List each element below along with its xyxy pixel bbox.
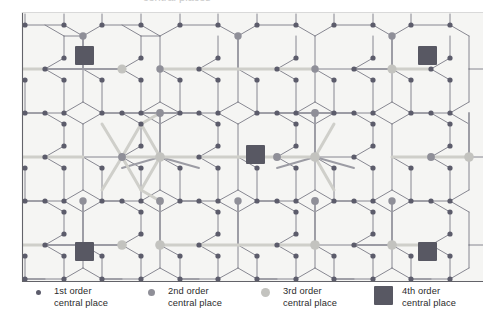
legend-label-order-1-line1: 1st order — [54, 286, 92, 298]
legend-label-order-1-line2: central place — [54, 298, 108, 310]
legend-label-order-2-line2: central place — [168, 298, 222, 310]
order4-square — [75, 242, 94, 261]
order-4-marker-icon — [374, 286, 393, 305]
legend: 1st order central place 2nd order centra… — [0, 286, 483, 327]
legend-label-order-2-line1: 2nd order — [168, 286, 209, 298]
cropped-title-text: central places — [143, 0, 211, 3]
legend-label-order-3-line2: central place — [283, 298, 337, 310]
legend-label-order-3-line1: 3rd order — [283, 286, 322, 298]
order4-square — [418, 46, 437, 65]
hexagonal-lattice-map — [0, 11, 483, 283]
legend-label-order-4-line1: 4th order — [402, 286, 440, 298]
order-1-marker-icon — [36, 290, 41, 295]
order-2-marker-icon — [148, 289, 155, 296]
legend-label-order-4-line2: central place — [402, 298, 456, 310]
order4-square — [246, 145, 265, 164]
order4-square — [418, 242, 437, 261]
title-clip-region: central places — [0, 0, 483, 11]
central-place-figure: central places — [0, 0, 483, 327]
order4-square — [75, 46, 94, 65]
order-3-marker-icon — [261, 288, 270, 297]
